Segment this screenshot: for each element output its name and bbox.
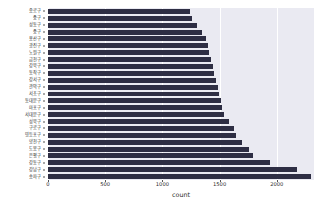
y-tick-mark [43, 162, 45, 163]
y-tick-mark [43, 87, 45, 88]
bar [48, 98, 221, 103]
x-tick-label: 1000 [156, 182, 169, 187]
y-tick-label: 양천구 [29, 140, 41, 144]
x-tick-mark [48, 180, 49, 182]
y-tick-label: 구로구 [29, 126, 41, 130]
y-tick-mark [43, 128, 45, 129]
y-tick-label: 강북구 [29, 64, 41, 68]
bar-row [48, 84, 218, 91]
bar [48, 78, 216, 83]
y-tick-mark [43, 45, 45, 46]
bar-row [48, 125, 234, 132]
y-tick-mark [43, 73, 45, 74]
x-axis-label: count [48, 192, 314, 199]
bar [48, 160, 270, 165]
bar-row [48, 146, 249, 153]
bar-row [48, 132, 236, 139]
bar-row [48, 118, 229, 125]
y-tick-label: 강남구 [29, 168, 41, 172]
bar [48, 119, 229, 124]
y-tick-label: 도봉구 [29, 147, 41, 151]
bar-row [48, 63, 213, 70]
bar-row [48, 159, 270, 166]
bar [48, 36, 206, 41]
bar [48, 167, 297, 172]
bar-chart-figure: 종로구중구성동구중구용산구광진구노원구금천구강북구동작구강서구관악구서초구동대문… [0, 0, 326, 210]
y-tick-label: 영등포구 [25, 133, 41, 137]
bar-row [48, 152, 253, 159]
x-tick-mark [220, 180, 221, 182]
y-tick-label: 광진구 [29, 44, 41, 48]
y-tick-mark [43, 107, 45, 108]
y-tick-label: 노원구 [29, 51, 41, 55]
plot-area [48, 8, 314, 180]
y-tick-mark [43, 114, 45, 115]
y-tick-label: 성북구 [29, 119, 41, 123]
y-tick-label: 중구 [33, 16, 41, 20]
y-tick-label: 마포구 [29, 106, 41, 110]
bar-row [48, 8, 190, 15]
gridline-x [277, 8, 278, 180]
y-tick-label: 금천구 [29, 57, 41, 61]
bar-row [48, 91, 219, 98]
y-tick-mark [43, 155, 45, 156]
bar [48, 64, 213, 69]
y-tick-label: 관악구 [29, 85, 41, 89]
y-tick-mark [43, 11, 45, 12]
bar-row [48, 104, 222, 111]
bar [48, 140, 242, 145]
bar-row [48, 15, 192, 22]
y-tick-mark [43, 100, 45, 101]
bar-row [48, 70, 214, 77]
bar [48, 133, 236, 138]
bar [48, 153, 253, 158]
y-tick-label: 동작구 [29, 71, 41, 75]
y-tick-mark [43, 18, 45, 19]
y-tick-label: 중구 [33, 30, 41, 34]
bar [48, 43, 208, 48]
y-tick-mark [43, 38, 45, 39]
y-tick-mark [43, 169, 45, 170]
bar [48, 147, 249, 152]
y-tick-mark [43, 80, 45, 81]
x-tick-label: 0 [46, 182, 49, 187]
bar-row [48, 56, 211, 63]
bar [48, 16, 192, 21]
bar-row [48, 111, 224, 118]
y-tick-label: 종로구 [29, 9, 41, 13]
bar-row [48, 29, 202, 36]
bar [48, 105, 222, 110]
y-tick-mark [43, 66, 45, 67]
y-tick-mark [43, 52, 45, 53]
x-tick-label: 1500 [213, 182, 226, 187]
y-tick-mark [43, 25, 45, 26]
bar [48, 174, 311, 179]
bar [48, 23, 197, 28]
bar-row [48, 139, 242, 146]
y-tick-mark [43, 32, 45, 33]
y-tick-mark [43, 176, 45, 177]
y-tick-mark [43, 59, 45, 60]
bar [48, 30, 202, 35]
y-tick-label: 성동구 [29, 23, 41, 27]
bar [48, 71, 214, 76]
x-tick-mark [105, 180, 106, 182]
bar-row [48, 42, 208, 49]
y-tick-label: 송파구 [29, 174, 41, 178]
bar-row [48, 166, 297, 173]
bar-row [48, 22, 197, 29]
y-tick-label: 강서구 [29, 78, 41, 82]
y-tick-mark [43, 121, 45, 122]
y-tick-mark [43, 135, 45, 136]
x-tick-label: 500 [100, 182, 110, 187]
y-tick-mark [43, 94, 45, 95]
bar-row [48, 97, 221, 104]
bar-row [48, 77, 216, 84]
y-tick-label: 동대문구 [25, 99, 41, 103]
y-tick-label: 은평구 [29, 154, 41, 158]
y-axis-tick-labels: 종로구중구성동구중구용산구광진구노원구금천구강북구동작구강서구관악구서초구동대문… [0, 8, 45, 180]
bar [48, 112, 224, 117]
bar [48, 57, 211, 62]
y-tick-label: 강동구 [29, 161, 41, 165]
bar [48, 9, 190, 14]
